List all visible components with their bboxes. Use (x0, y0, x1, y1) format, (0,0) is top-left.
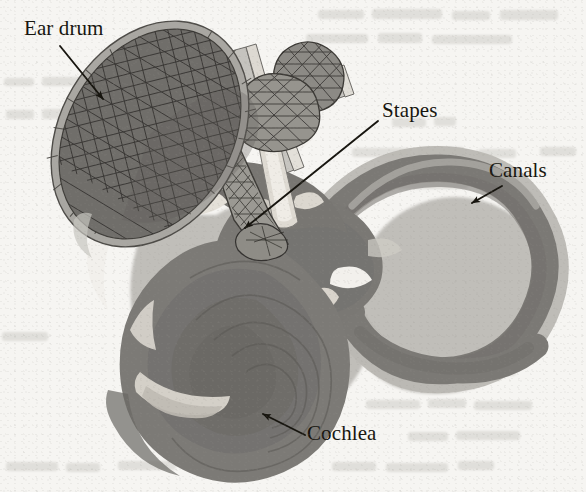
label-cochlea: Cochlea (307, 423, 377, 444)
label-ear-drum: Ear drum (24, 18, 104, 39)
label-canals: Canals (489, 160, 547, 181)
inner-ear-mesh-figure (0, 0, 586, 492)
label-stapes: Stapes (382, 100, 437, 121)
